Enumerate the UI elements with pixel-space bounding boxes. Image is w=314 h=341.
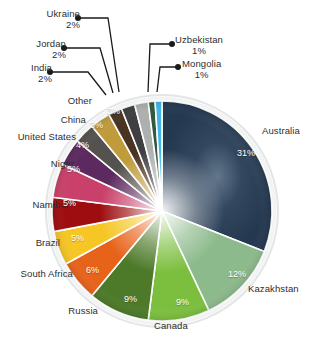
pie-chart-canvas xyxy=(0,0,314,341)
leader-dot-india xyxy=(47,69,53,75)
leader-line-ukraine xyxy=(78,18,119,92)
leader-dot-mongolia xyxy=(175,64,181,70)
leader-line-group xyxy=(47,15,181,95)
pie-chart: Ukraine 2% Jordan 2% India 2% Uzbekistan… xyxy=(0,0,314,341)
leader-dot-jordan xyxy=(61,45,67,51)
leader-line-india xyxy=(50,72,106,95)
leader-line-mongolia xyxy=(157,67,178,92)
leader-dot-ukraine xyxy=(75,15,81,21)
pie-slice-group xyxy=(52,101,272,321)
leader-dot-uzbekistan xyxy=(169,41,175,47)
leader-line-jordan xyxy=(64,48,113,93)
